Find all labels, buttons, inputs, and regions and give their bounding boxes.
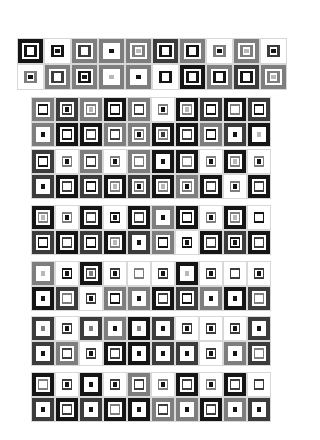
concentric-square-tile bbox=[151, 397, 175, 422]
tile-row bbox=[31, 230, 271, 255]
concentric-square-tile bbox=[103, 97, 127, 122]
square-ring bbox=[190, 49, 195, 53]
square-ring bbox=[233, 184, 237, 189]
square-ring bbox=[65, 184, 69, 189]
square-ring bbox=[65, 351, 69, 356]
concentric-square-tile bbox=[71, 64, 98, 90]
tile-block-7 bbox=[31, 372, 271, 422]
square-ring bbox=[209, 407, 213, 412]
square-ring bbox=[41, 159, 45, 164]
square-ring bbox=[82, 75, 87, 79]
square-ring bbox=[209, 271, 213, 276]
concentric-square-tile bbox=[127, 174, 151, 199]
square-ring bbox=[113, 296, 117, 301]
square-ring bbox=[137, 407, 141, 412]
tile-row bbox=[31, 205, 271, 230]
square-ring bbox=[137, 107, 141, 112]
concentric-square-tile bbox=[103, 286, 127, 311]
concentric-square-tile bbox=[55, 174, 79, 199]
concentric-square-tile bbox=[127, 97, 151, 122]
concentric-square-tile bbox=[55, 97, 79, 122]
tile-row bbox=[31, 149, 271, 174]
square-ring bbox=[185, 382, 189, 387]
square-ring bbox=[55, 49, 60, 53]
square-ring bbox=[244, 49, 249, 53]
concentric-square-tile bbox=[199, 174, 223, 199]
square-ring bbox=[233, 351, 237, 356]
concentric-square-tile bbox=[79, 286, 103, 311]
concentric-square-tile bbox=[31, 174, 55, 199]
square-ring bbox=[137, 132, 141, 137]
concentric-square-tile bbox=[175, 97, 199, 122]
concentric-square-tile bbox=[199, 261, 223, 286]
concentric-square-tile bbox=[233, 38, 260, 64]
concentric-square-tile bbox=[199, 372, 223, 397]
square-ring bbox=[233, 159, 237, 164]
concentric-square-tile bbox=[151, 122, 175, 147]
square-ring bbox=[257, 132, 261, 137]
concentric-square-tile bbox=[247, 261, 271, 286]
concentric-square-tile bbox=[98, 38, 125, 64]
square-ring bbox=[65, 132, 69, 137]
square-ring bbox=[257, 240, 261, 245]
tile-row bbox=[31, 261, 271, 286]
square-ring bbox=[185, 326, 189, 331]
square-ring bbox=[209, 296, 213, 301]
concentric-square-tile bbox=[151, 261, 175, 286]
concentric-square-tile bbox=[103, 205, 127, 230]
concentric-square-tile bbox=[79, 122, 103, 147]
concentric-square-tile bbox=[55, 372, 79, 397]
concentric-square-tile bbox=[247, 286, 271, 311]
square-ring bbox=[209, 351, 213, 356]
square-ring bbox=[257, 296, 261, 301]
square-ring bbox=[89, 240, 93, 245]
tile-block-5 bbox=[31, 261, 271, 311]
tile-row bbox=[31, 122, 271, 147]
concentric-square-tile bbox=[175, 230, 199, 255]
concentric-square-tile bbox=[223, 174, 247, 199]
concentric-square-tile bbox=[247, 205, 271, 230]
concentric-square-tile bbox=[247, 174, 271, 199]
square-ring bbox=[41, 271, 45, 276]
concentric-square-tile bbox=[103, 341, 127, 366]
tile-block-3 bbox=[31, 149, 271, 199]
concentric-square-tile bbox=[103, 397, 127, 422]
square-ring bbox=[209, 382, 213, 387]
square-ring bbox=[185, 296, 189, 301]
concentric-square-tile bbox=[127, 230, 151, 255]
concentric-square-tile bbox=[127, 316, 151, 341]
square-ring bbox=[41, 107, 45, 112]
concentric-square-tile bbox=[175, 174, 199, 199]
square-ring bbox=[257, 107, 261, 112]
square-ring bbox=[113, 107, 117, 112]
square-ring bbox=[136, 49, 141, 53]
square-ring bbox=[163, 49, 168, 53]
concentric-square-tile bbox=[79, 205, 103, 230]
square-ring bbox=[82, 49, 87, 53]
concentric-square-tile bbox=[179, 64, 206, 90]
square-ring bbox=[233, 107, 237, 112]
concentric-square-tile bbox=[151, 286, 175, 311]
tile-row bbox=[31, 372, 271, 397]
concentric-square-tile bbox=[103, 316, 127, 341]
concentric-square-tile bbox=[247, 372, 271, 397]
concentric-square-tile bbox=[103, 230, 127, 255]
square-ring bbox=[89, 159, 93, 164]
concentric-square-tile bbox=[103, 372, 127, 397]
concentric-square-tile bbox=[98, 64, 125, 90]
concentric-square-tile bbox=[223, 205, 247, 230]
concentric-square-tile bbox=[151, 174, 175, 199]
concentric-square-tile bbox=[223, 230, 247, 255]
concentric-square-tile bbox=[199, 230, 223, 255]
square-ring bbox=[257, 326, 261, 331]
concentric-square-tile bbox=[127, 397, 151, 422]
square-ring bbox=[65, 240, 69, 245]
square-ring bbox=[113, 382, 117, 387]
concentric-square-tile bbox=[151, 97, 175, 122]
square-ring bbox=[113, 184, 117, 189]
square-ring bbox=[190, 75, 195, 79]
concentric-square-tile bbox=[44, 64, 71, 90]
concentric-square-tile bbox=[152, 64, 179, 90]
square-ring bbox=[89, 271, 93, 276]
concentric-square-tile bbox=[55, 397, 79, 422]
